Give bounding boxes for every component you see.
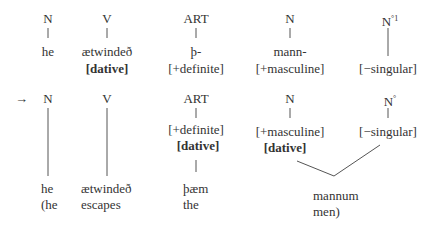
- row1-label-n2: N: [285, 12, 294, 26]
- row1-label-n-plural: N°1: [382, 12, 399, 29]
- row2-n-masculine: [+masculine]: [256, 125, 325, 139]
- row2-word-mannum: mannum: [313, 189, 359, 203]
- row2-label-v: V: [102, 92, 111, 106]
- row2-word-aetwindeth: ætwindeð: [81, 182, 132, 196]
- row2-n-dative: [dative]: [264, 141, 307, 155]
- row1-word-aetwindeth: ætwindeð: [82, 45, 133, 59]
- row1-label-v: V: [102, 12, 111, 26]
- row2-label-art: ART: [183, 92, 208, 106]
- gloss-the: the: [183, 198, 199, 212]
- row1-feature-singular: [−singular]: [359, 62, 417, 76]
- tree-lines: [0, 0, 437, 226]
- gloss-escapes: escapes: [81, 198, 121, 212]
- row1-word-th: þ-: [191, 45, 202, 59]
- row1-word-mann: mann-: [273, 45, 306, 59]
- gloss-men: men): [313, 205, 340, 219]
- row1-label-n: N: [43, 12, 52, 26]
- row2-word-thaem: þæm: [183, 182, 208, 196]
- gloss-he: (he: [41, 198, 58, 212]
- row2-art-dative: [dative]: [177, 139, 220, 153]
- row2-word-he: he: [41, 182, 53, 196]
- row1-feature-dative: [dative]: [86, 62, 129, 76]
- row1-feature-masculine: [+masculine]: [256, 62, 325, 76]
- derivation-arrow: →: [15, 92, 28, 106]
- row2-art-definite: [+definite]: [168, 123, 224, 137]
- row1-label-art: ART: [183, 12, 208, 26]
- row2-no-singular: [−singular]: [359, 125, 417, 139]
- row1-word-he: he: [42, 45, 54, 59]
- row2-label-n: N: [43, 92, 52, 106]
- row1-feature-definite: [+definite]: [168, 62, 224, 76]
- row2-label-n2: N: [285, 92, 294, 106]
- row2-label-n-zero: N°: [384, 92, 397, 109]
